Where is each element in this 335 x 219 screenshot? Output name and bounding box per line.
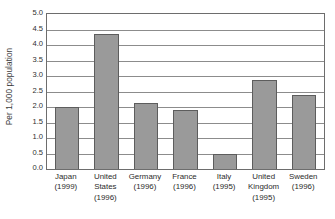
x-axis-category-label: Japan(1999)	[46, 172, 86, 193]
y-axis-tick-label: 4.0	[32, 40, 43, 48]
x-axis-category-label-line: (1996)	[125, 182, 165, 192]
x-axis-category-label: Sweden(1996)	[283, 172, 323, 193]
x-axis-category-label: Italy(1995)	[204, 172, 244, 193]
x-axis-category-label-line: States	[86, 182, 126, 192]
x-axis-category-label: UnitedStates(1996)	[86, 172, 126, 203]
x-axis-category-label-line: Japan	[46, 172, 86, 182]
y-axis-tick-label: 0.0	[32, 164, 43, 172]
y-axis-tick-label: 4.5	[32, 25, 43, 33]
y-axis-tick-labels: 5.04.54.03.53.02.52.01.51.00.50.0	[19, 0, 45, 180]
x-axis-category-label-line: (1996)	[86, 193, 126, 203]
y-axis-tick-label: 2.0	[32, 102, 43, 110]
x-axis-category-label-line: Italy	[204, 172, 244, 182]
x-axis-category-labels: Japan(1999)UnitedStates(1996)Germany(199…	[46, 172, 325, 219]
y-axis-tick-label: 1.0	[32, 133, 43, 141]
bar	[173, 110, 198, 169]
bar	[94, 34, 119, 169]
x-axis-category-label-line: France	[165, 172, 205, 182]
gridline	[47, 76, 324, 77]
x-axis-category-label-line: Kingdom	[244, 182, 284, 192]
y-axis-tick-label: 2.5	[32, 87, 43, 95]
gridline	[47, 61, 324, 62]
gridline	[47, 30, 324, 31]
gridline	[47, 45, 324, 46]
x-axis-category-label-line: (1995)	[204, 182, 244, 192]
bar	[292, 95, 317, 169]
x-axis-category-label-line: Sweden	[283, 172, 323, 182]
bar	[252, 80, 277, 169]
plot-area	[46, 13, 325, 170]
gridline	[47, 107, 324, 108]
bar	[55, 107, 80, 169]
y-axis-tick-label: 3.0	[32, 71, 43, 79]
y-axis-tick-label: 5.0	[32, 9, 43, 17]
bar-chart-figure: Per 1,000 population 5.04.54.03.53.02.52…	[0, 0, 335, 219]
x-axis-category-label-line: United	[244, 172, 284, 182]
y-axis-title-text: Per 1,000 population	[5, 47, 14, 125]
x-axis-category-label-line: (1995)	[244, 193, 284, 203]
y-axis-title: Per 1,000 population	[0, 0, 19, 172]
y-axis-tick-label: 3.5	[32, 56, 43, 64]
gridline	[47, 92, 324, 93]
bar	[134, 103, 159, 169]
x-axis-category-label-line: (1996)	[165, 182, 205, 192]
x-axis-category-label-line: (1996)	[283, 182, 323, 192]
x-axis-category-label-line: United	[86, 172, 126, 182]
x-axis-category-label: UnitedKingdom(1995)	[244, 172, 284, 203]
y-axis-tick-label: 0.5	[32, 149, 43, 157]
x-axis-category-label: Germany(1996)	[125, 172, 165, 193]
x-axis-category-label: France(1996)	[165, 172, 205, 193]
x-axis-category-label-line: (1999)	[46, 182, 86, 192]
y-axis-tick-label: 1.5	[32, 118, 43, 126]
bar	[213, 154, 238, 169]
x-axis-category-label-line: Germany	[125, 172, 165, 182]
